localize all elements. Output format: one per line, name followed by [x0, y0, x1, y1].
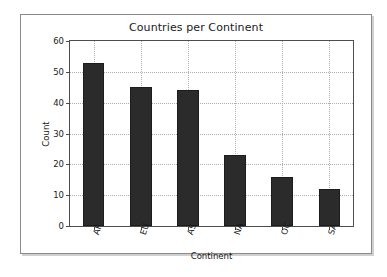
- bar-af[interactable]: [83, 63, 105, 226]
- y-tick-mark: [66, 164, 70, 165]
- y-tick-mark: [66, 41, 70, 42]
- gridline-horizontal: [70, 164, 353, 165]
- bar-eu[interactable]: [130, 87, 152, 226]
- figure-panel: Countries per Continent Count 0102030405…: [20, 14, 372, 254]
- x-axis-label: Continent: [69, 251, 354, 261]
- y-axis-label: Count: [41, 121, 51, 146]
- gridline-horizontal: [70, 134, 353, 135]
- x-tick-label: OC: [279, 221, 292, 236]
- y-tick-label: 20: [53, 159, 64, 169]
- bar-na[interactable]: [224, 155, 246, 226]
- y-tick-label: 0: [59, 221, 64, 231]
- plot-area: 0102030405060 AFEUASNAOCSA: [69, 40, 354, 227]
- y-tick-mark: [66, 134, 70, 135]
- x-tick-label: AF: [91, 223, 104, 236]
- y-tick-mark: [66, 72, 70, 73]
- x-tick-label: NA: [232, 221, 245, 236]
- bar-oc[interactable]: [271, 177, 293, 226]
- y-tick-label: 30: [53, 129, 64, 139]
- gridline-horizontal: [70, 103, 353, 104]
- bar-as[interactable]: [177, 90, 199, 226]
- bar-sa[interactable]: [319, 189, 341, 226]
- gridline-horizontal: [70, 195, 353, 196]
- y-tick-label: 10: [53, 190, 64, 200]
- plot-inner: [70, 41, 353, 226]
- y-tick-label: 60: [53, 36, 64, 46]
- chart-title: Countries per Continent: [21, 21, 371, 34]
- x-tick-label: AS: [185, 222, 198, 236]
- x-tick-label: SA: [326, 222, 339, 236]
- y-tick-label: 50: [53, 67, 64, 77]
- y-tick-label: 40: [53, 98, 64, 108]
- x-tick-label: EU: [138, 222, 151, 236]
- gridline-horizontal: [70, 72, 353, 73]
- y-tick-mark: [66, 103, 70, 104]
- y-tick-mark: [66, 195, 70, 196]
- y-tick-mark: [66, 226, 70, 227]
